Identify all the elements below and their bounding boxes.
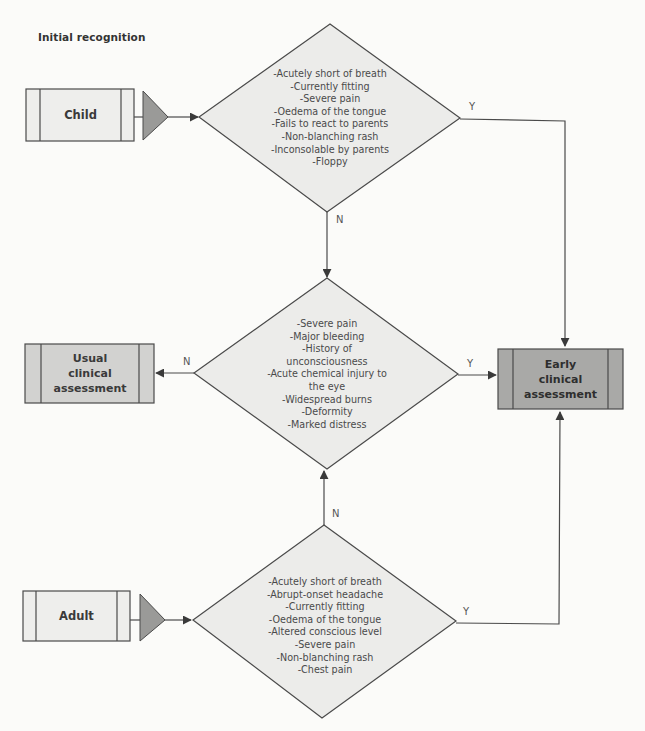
criteria-item: -Marked distress: [227, 419, 427, 432]
diagram-title: Initial recognition: [38, 31, 145, 43]
criteria-item: -Non-blanching rash: [230, 131, 430, 144]
general-criteria-list: -Severe pain -Major bleeding -History of…: [227, 318, 427, 431]
criteria-item: -Severe pain: [230, 93, 430, 106]
criteria-item: -Oedema of the tongue: [225, 614, 425, 627]
criteria-item: -Chest pain: [225, 664, 425, 677]
criteria-item: -Oedema of the tongue: [230, 106, 430, 119]
criteria-item: -Inconsolable by parents: [230, 144, 430, 157]
criteria-item: -Altered conscious level: [225, 626, 425, 639]
early-label-line-2: clinical: [539, 372, 582, 387]
criteria-item: unconsciousness: [227, 356, 427, 369]
criteria-item: -Severe pain: [225, 639, 425, 652]
early-label-line-3: assessment: [524, 387, 597, 402]
usual-assessment-label: Usual clinical assessment: [41, 344, 139, 403]
child-no-label: N: [336, 214, 343, 225]
criteria-item: -Floppy: [230, 156, 430, 169]
criteria-item: -Fails to react to parents: [230, 118, 430, 131]
criteria-item: -Widespread burns: [227, 394, 427, 407]
criteria-item: -Deformity: [227, 406, 427, 419]
child-triangle-icon: [143, 91, 168, 140]
usual-label-line-2: clinical: [68, 366, 111, 381]
adult-criteria-list: -Acutely short of breath -Abrupt-onset h…: [225, 576, 425, 677]
criteria-item: -Major bleeding: [227, 331, 427, 344]
adult-triangle-icon: [140, 594, 165, 641]
criteria-item: the eye: [227, 381, 427, 394]
criteria-item: -Acutely short of breath: [230, 68, 430, 81]
criteria-item: -Currently fitting: [225, 601, 425, 614]
criteria-item: -Currently fitting: [230, 81, 430, 94]
criteria-item: -Non-blanching rash: [225, 652, 425, 665]
criteria-item: -Severe pain: [227, 318, 427, 331]
criteria-item: -History of: [227, 343, 427, 356]
early-label-line-1: Early: [545, 357, 576, 372]
usual-label-line-1: Usual: [73, 351, 108, 366]
general-yes-label: Y: [467, 358, 473, 369]
child-yes-label: Y: [469, 101, 475, 112]
criteria-item: -Acute chemical injury to: [227, 368, 427, 381]
child-criteria-list: -Acutely short of breath -Currently fitt…: [230, 68, 430, 169]
early-assessment-label: Early clinical assessment: [513, 349, 608, 409]
usual-label-line-3: assessment: [53, 381, 126, 396]
criteria-item: -Acutely short of breath: [225, 576, 425, 589]
criteria-item: -Abrupt-onset headache: [225, 589, 425, 602]
adult-label: Adult: [36, 591, 117, 641]
adult-no-label: N: [332, 508, 339, 519]
general-no-label: N: [183, 356, 190, 367]
child-label: Child: [40, 89, 121, 141]
adult-yes-label: Y: [463, 606, 469, 617]
